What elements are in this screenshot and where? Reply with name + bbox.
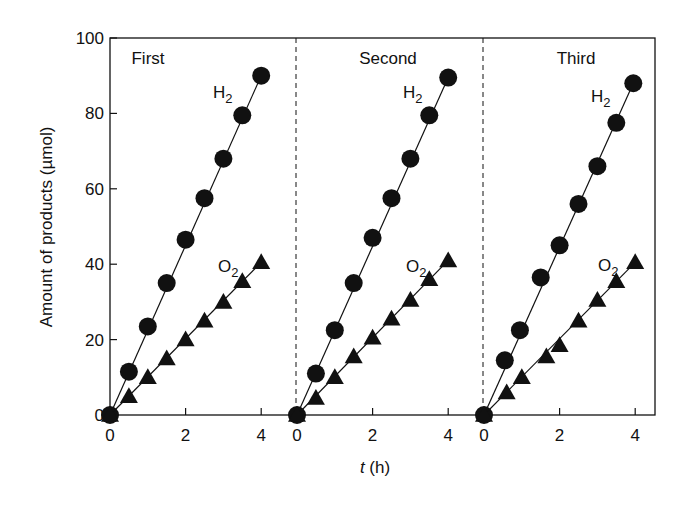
x-tick-label: 0 bbox=[479, 426, 488, 445]
h2-data-point bbox=[496, 351, 514, 369]
h2-data-point bbox=[307, 365, 325, 383]
h2-data-point bbox=[420, 106, 438, 124]
h2-data-point bbox=[401, 150, 419, 168]
h2-data-point bbox=[607, 114, 625, 132]
plot-frame bbox=[110, 38, 655, 415]
h2-data-point bbox=[532, 268, 550, 286]
y-axis: 020406080100 bbox=[76, 29, 117, 425]
x-tick-label: 4 bbox=[256, 426, 265, 445]
o2-data-point bbox=[570, 312, 588, 328]
h2-data-point bbox=[214, 150, 232, 168]
o2-data-point bbox=[551, 336, 569, 352]
x-tick-label: 2 bbox=[368, 426, 377, 445]
o2-data-point bbox=[214, 293, 232, 309]
h2-data-point bbox=[326, 321, 344, 339]
o2-data-point bbox=[196, 312, 214, 328]
o2-series-label: O2 bbox=[406, 257, 426, 280]
o2-series-label: O2 bbox=[218, 257, 238, 280]
h2-data-point bbox=[345, 274, 363, 292]
h2-data-point bbox=[570, 195, 588, 213]
h2-data-point bbox=[233, 106, 251, 124]
x-tick-label: 0 bbox=[105, 426, 114, 445]
o2-series-label: O2 bbox=[598, 256, 618, 279]
chart: 020406080100 024024024 FirstH2O2SecondH2… bbox=[0, 0, 688, 506]
h2-data-point bbox=[120, 363, 138, 381]
x-axis-label-unit: (h) bbox=[365, 458, 391, 477]
h2-series-label: H2 bbox=[591, 87, 611, 110]
panel-title: First bbox=[131, 49, 164, 68]
h2-data-point bbox=[177, 231, 195, 249]
y-tick-label: 80 bbox=[85, 104, 104, 123]
o2-data-point bbox=[626, 253, 644, 269]
y-tick-label: 60 bbox=[85, 180, 104, 199]
y-tick-label: 20 bbox=[85, 331, 104, 350]
h2-data-point bbox=[383, 189, 401, 207]
h2-data-point bbox=[624, 74, 642, 92]
panel-first: FirstH2O2 bbox=[101, 49, 270, 424]
h2-data-point bbox=[196, 189, 214, 207]
o2-data-point bbox=[439, 251, 457, 267]
h2-data-point bbox=[252, 67, 270, 85]
h2-data-point bbox=[158, 274, 176, 292]
x-tick-label: 2 bbox=[555, 426, 564, 445]
panel-second: SecondH2O2 bbox=[288, 49, 457, 424]
h2-data-point bbox=[588, 157, 606, 175]
x-tick-label: 4 bbox=[630, 426, 639, 445]
h2-data-point bbox=[364, 229, 382, 247]
x-axis-label: t (h) bbox=[360, 458, 390, 477]
x-tick-label: 0 bbox=[292, 426, 301, 445]
h2-series-label: H2 bbox=[213, 83, 233, 106]
y-tick-label: 40 bbox=[85, 255, 104, 274]
panel-third: ThirdH2O2 bbox=[475, 49, 644, 424]
h2-data-point bbox=[511, 321, 529, 339]
panels: FirstH2O2SecondH2O2ThirdH2O2 bbox=[101, 49, 644, 424]
y-axis-label: Amount of products (µmol) bbox=[37, 127, 56, 328]
h2-series-label: H2 bbox=[403, 83, 423, 106]
h2-data-point bbox=[439, 69, 457, 87]
x-axes: 024024024 bbox=[105, 408, 640, 445]
h2-data-point bbox=[551, 236, 569, 254]
panel-title: Second bbox=[359, 49, 417, 68]
y-tick-label: 100 bbox=[76, 29, 104, 48]
panel-title: Third bbox=[557, 49, 596, 68]
h2-data-point bbox=[139, 317, 157, 335]
x-tick-label: 4 bbox=[443, 426, 452, 445]
x-tick-label: 2 bbox=[181, 426, 190, 445]
o2-data-point bbox=[307, 389, 325, 405]
o2-data-point bbox=[252, 253, 270, 269]
